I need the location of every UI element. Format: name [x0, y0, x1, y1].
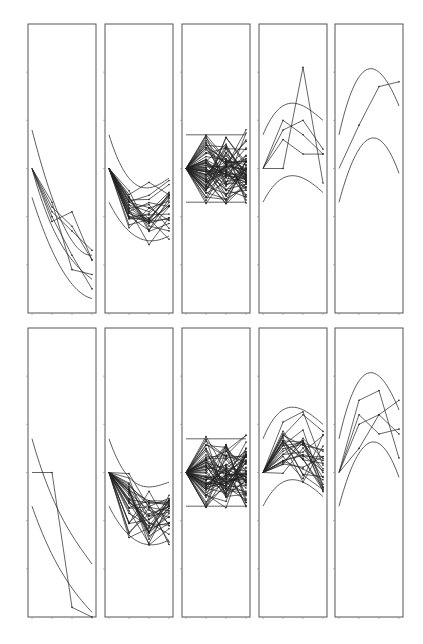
data-point	[91, 616, 93, 618]
trajectory-line	[339, 415, 399, 473]
data-point	[205, 458, 207, 460]
data-point	[322, 486, 324, 488]
data-point	[168, 228, 170, 230]
data-point	[205, 189, 207, 191]
trajectory-line	[263, 120, 323, 168]
data-point	[282, 120, 284, 122]
trajectory-line	[263, 441, 323, 492]
data-point	[225, 473, 227, 475]
data-point	[225, 165, 227, 167]
data-point	[148, 544, 150, 546]
data-point	[322, 464, 324, 466]
data-point	[282, 450, 284, 452]
data-point	[225, 470, 227, 472]
data-point	[168, 220, 170, 222]
data-point	[128, 522, 130, 524]
data-point	[168, 213, 170, 215]
data-point	[225, 152, 227, 154]
data-point	[205, 477, 207, 479]
data-point	[282, 461, 284, 463]
data-point	[148, 515, 150, 517]
data-point	[168, 523, 170, 525]
data-point	[168, 524, 170, 526]
data-point	[205, 163, 207, 165]
data-point	[245, 482, 247, 484]
data-point	[148, 204, 150, 206]
data-point	[168, 513, 170, 515]
data-point	[205, 169, 207, 171]
data-point	[322, 431, 324, 433]
data-point	[245, 182, 247, 184]
data-point	[225, 489, 227, 491]
data-point	[302, 451, 304, 453]
data-point	[128, 227, 130, 229]
data-point	[245, 189, 247, 191]
data-point	[205, 438, 207, 440]
data-point	[322, 445, 324, 447]
data-point	[128, 482, 130, 484]
data-point	[225, 173, 227, 175]
panel-r0-c4	[333, 24, 403, 315]
envelope-curve-upper	[339, 69, 399, 135]
data-point	[91, 288, 93, 290]
data-point	[168, 198, 170, 200]
data-point	[168, 202, 170, 204]
data-point	[322, 153, 324, 155]
data-point	[168, 217, 170, 219]
data-point	[378, 86, 380, 88]
data-point	[148, 217, 150, 219]
data-point	[398, 399, 400, 401]
data-point	[168, 511, 170, 513]
data-point	[205, 165, 207, 167]
data-point	[128, 492, 130, 494]
data-point	[128, 531, 130, 533]
data-point	[358, 399, 360, 401]
data-point	[205, 184, 207, 186]
data-point	[322, 449, 324, 451]
data-point	[302, 458, 304, 460]
data-point	[322, 479, 324, 481]
data-point	[358, 124, 360, 126]
data-point	[168, 223, 170, 225]
data-point	[128, 485, 130, 487]
data-point	[71, 607, 73, 609]
data-point	[225, 496, 227, 498]
data-point	[205, 459, 207, 461]
envelope-curve-lower	[263, 480, 323, 507]
data-point	[245, 484, 247, 486]
data-point	[245, 473, 247, 475]
data-point	[128, 218, 130, 220]
data-point	[398, 433, 400, 435]
data-point	[245, 194, 247, 196]
data-point	[168, 206, 170, 208]
data-point	[225, 474, 227, 476]
data-point	[282, 168, 284, 170]
data-point	[245, 149, 247, 151]
data-point	[225, 486, 227, 488]
panel-frame	[335, 24, 403, 313]
data-point	[245, 132, 247, 134]
data-point	[148, 213, 150, 215]
data-point	[168, 503, 170, 505]
data-point	[245, 490, 247, 492]
data-point	[205, 144, 207, 146]
data-point	[245, 186, 247, 188]
data-point	[128, 190, 130, 192]
data-point	[148, 221, 150, 223]
data-point	[225, 181, 227, 183]
envelope-curve-lower	[263, 176, 323, 203]
data-point	[225, 176, 227, 178]
data-point	[322, 182, 324, 184]
data-point	[128, 500, 130, 502]
data-point	[205, 149, 207, 151]
data-point	[148, 225, 150, 227]
data-point	[205, 182, 207, 184]
data-point	[225, 158, 227, 160]
data-point	[245, 129, 247, 131]
data-point	[282, 433, 284, 435]
data-point	[322, 463, 324, 465]
data-point	[245, 463, 247, 465]
data-point	[148, 502, 150, 504]
data-point	[358, 414, 360, 416]
data-point	[205, 178, 207, 180]
